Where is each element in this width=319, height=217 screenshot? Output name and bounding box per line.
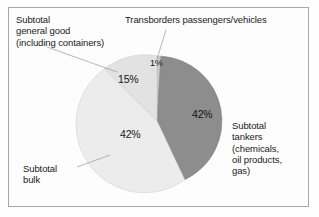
slice-percent-tankers: 42% (192, 108, 212, 120)
leader-line-general-goods (47, 47, 117, 72)
slice-percent-general-goods: 15% (118, 73, 138, 85)
slice-percent-transborders: 1% (150, 58, 163, 68)
leader-line-transborders (157, 30, 166, 59)
slice-percent-bulk: 42% (120, 128, 140, 140)
slice-label-transborders: Transborders passengers/vehicles (125, 14, 267, 25)
pie-chart-figure: Subtotal general good (including contain… (0, 0, 319, 217)
slice-label-tankers: Subtotal tankers (chemicals, oil product… (232, 120, 282, 176)
slice-label-general-goods: Subtotal general good (including contain… (16, 14, 104, 48)
slice-label-bulk: Subtotal bulk (23, 163, 57, 186)
